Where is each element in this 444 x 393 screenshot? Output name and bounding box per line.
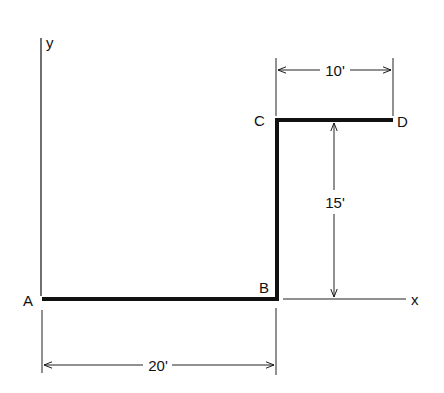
point-b-label: B [259,279,269,296]
point-a-label: A [23,292,33,309]
y-axis-label: y [46,34,54,51]
dim-bc-label: 15' [325,194,345,211]
x-axis-label: x [411,291,419,308]
point-c-label: C [254,112,265,129]
diagram-canvas: y x A B C D 10' 15' 20' [0,0,444,393]
point-d-label: D [397,113,408,130]
dim-ab-label: 20' [148,357,168,374]
dim-cd-label: 10' [325,62,345,79]
